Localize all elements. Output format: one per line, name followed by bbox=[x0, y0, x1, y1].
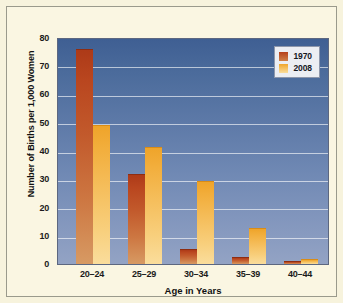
y-tick-label: 0 bbox=[23, 259, 49, 269]
legend-entry-1970: 1970 bbox=[279, 50, 312, 62]
y-tick-label: 40 bbox=[23, 146, 49, 156]
legend-entry-2008: 2008 bbox=[279, 62, 312, 74]
legend-label-1970: 1970 bbox=[293, 51, 312, 61]
bar-2008-40-44 bbox=[301, 259, 318, 264]
legend-label-2008: 2008 bbox=[293, 63, 312, 73]
chart-figure: Number of Births per 1,000 Women 80 70 6… bbox=[0, 0, 343, 303]
bar-2008-30-34 bbox=[197, 181, 214, 264]
bar-1970-35-39 bbox=[232, 257, 249, 264]
chart-legend: 1970 2008 bbox=[274, 46, 320, 78]
y-tick-label: 20 bbox=[23, 203, 49, 213]
bar-2008-25-29 bbox=[145, 147, 162, 264]
bar-1970-30-34 bbox=[180, 249, 197, 264]
y-tick-label: 70 bbox=[23, 61, 49, 71]
y-tick-label: 60 bbox=[23, 89, 49, 99]
legend-swatch-1970-icon bbox=[279, 52, 288, 61]
figure-frame: Number of Births per 1,000 Women 80 70 6… bbox=[6, 6, 337, 297]
bar-1970-40-44 bbox=[284, 261, 301, 264]
plot-area: 1970 2008 bbox=[57, 38, 329, 265]
y-tick-label: 30 bbox=[23, 174, 49, 184]
legend-swatch-2008-icon bbox=[279, 64, 288, 73]
gridline bbox=[58, 96, 328, 97]
y-tick-label: 50 bbox=[23, 118, 49, 128]
bar-1970-25-29 bbox=[128, 174, 145, 264]
bar-1970-20-24 bbox=[76, 49, 93, 264]
bar-2008-20-24 bbox=[93, 125, 110, 264]
x-axis-label: Age in Years bbox=[57, 285, 329, 296]
y-tick-label: 10 bbox=[23, 231, 49, 241]
y-tick-label: 80 bbox=[23, 33, 49, 43]
x-tick-label: 40–44 bbox=[265, 269, 335, 279]
bar-2008-35-39 bbox=[249, 228, 266, 265]
